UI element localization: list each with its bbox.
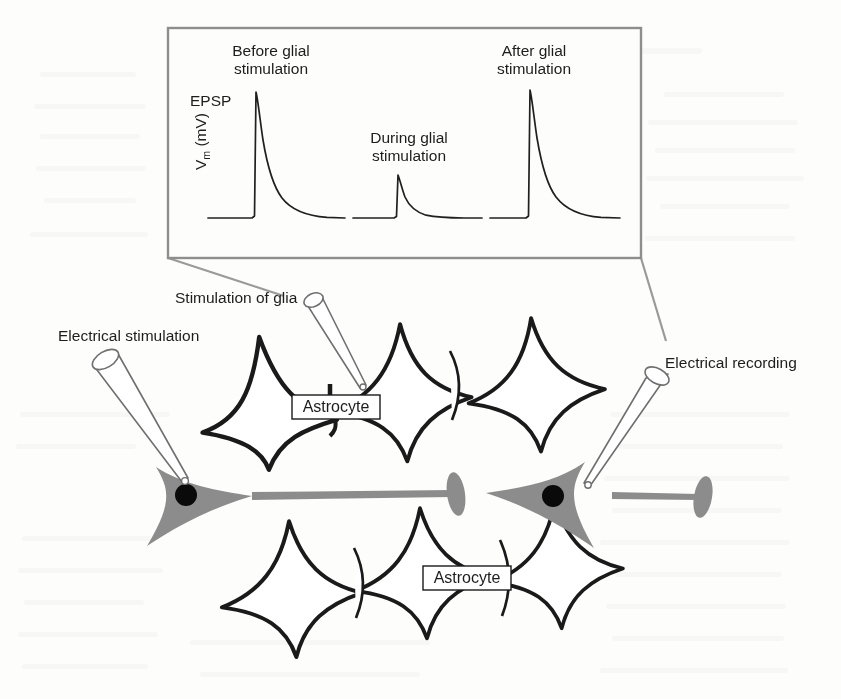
astrocyte-callout-bottom: Astrocyte xyxy=(423,566,511,590)
glial-stimulation-pipette-shaft xyxy=(306,297,366,388)
connector-right xyxy=(641,258,666,341)
astrocyte-callout-text-top: Astrocyte xyxy=(303,398,370,415)
astrocyte-bottom-left xyxy=(222,521,362,657)
astrocyte-apposition-top xyxy=(450,351,459,420)
figure-canvas: Before glial stimulation During glial st… xyxy=(0,0,841,699)
panel-label-before-line2: stimulation xyxy=(234,60,308,77)
astrocyte-top-right xyxy=(469,318,605,451)
label-electrical-recording: Electrical recording xyxy=(665,354,797,371)
label-electrical-stimulation: Electrical stimulation xyxy=(58,327,199,344)
presynaptic-nucleus xyxy=(175,484,197,506)
astrocyte-callout-top: Astrocyte xyxy=(292,395,380,419)
pipette-electrical-recording xyxy=(584,363,672,488)
label-stimulation-of-glia: Stimulation of glia xyxy=(175,289,298,306)
presynaptic-terminal-bouton xyxy=(444,471,468,517)
astrocyte-callout-text-bottom: Astrocyte xyxy=(434,569,501,586)
astrocyte-apposition-bottom-left xyxy=(354,548,363,618)
panel-label-after-line2: stimulation xyxy=(497,60,571,77)
pipette-glial-stimulation xyxy=(302,290,366,390)
y-axis-label-sub: m xyxy=(200,151,212,160)
svg-text:Vm (mV): Vm (mV) xyxy=(192,113,212,170)
astrocyte-top-middle xyxy=(333,324,472,461)
figure-root: Before glial stimulation During glial st… xyxy=(0,0,841,699)
panel-label-before-line1: Before glial xyxy=(232,42,310,59)
astrocyte-row-top xyxy=(203,318,605,470)
inset-panel: Before glial stimulation During glial st… xyxy=(168,28,641,258)
trace-after-glial-stimulation xyxy=(490,90,620,218)
presynaptic-soma xyxy=(147,467,252,546)
panel-label-after-line1: After glial xyxy=(502,42,567,59)
electrical-recording-pipette-tip xyxy=(585,482,591,488)
panel-label-during-line1: During glial xyxy=(370,129,448,146)
y-axis-label-v: V xyxy=(192,159,209,170)
epsp-annotation-label: EPSP xyxy=(190,92,231,109)
presynaptic-axon xyxy=(252,490,452,500)
trace-before-glial-stimulation xyxy=(208,92,345,218)
panel-label-during-line2: stimulation xyxy=(372,147,446,164)
y-axis-label: Vm (mV) xyxy=(192,113,212,170)
postsynaptic-axon xyxy=(612,492,698,500)
postsynaptic-nucleus xyxy=(542,485,564,507)
y-axis-label-units: (mV) xyxy=(192,113,209,151)
electrical-stimulation-pipette-tip xyxy=(182,478,189,485)
glial-stimulation-pipette-tip xyxy=(360,384,366,390)
trace-during-glial-stimulation xyxy=(353,175,482,218)
postsynaptic-soma xyxy=(486,462,594,548)
neuron-postsynaptic xyxy=(486,462,716,548)
